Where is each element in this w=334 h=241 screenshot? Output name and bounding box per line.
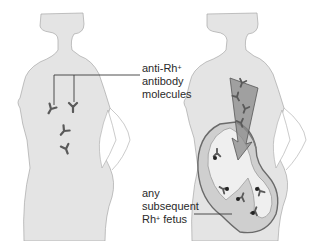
left-mother-silhouette — [18, 13, 130, 241]
fetus-label: any subsequent Rh+ fetus — [142, 187, 199, 226]
right-mother-silhouette — [184, 13, 306, 241]
rh-incompatibility-figure: anti-Rh+ antibody molecules any subseque… — [0, 0, 334, 241]
left-body — [18, 13, 114, 241]
antibody-label: anti-Rh+ antibody molecules — [142, 62, 192, 101]
